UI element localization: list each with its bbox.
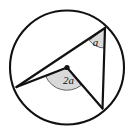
geometry-figure-container: a 2a: [0, 0, 136, 133]
central-angle-label: 2a: [63, 74, 75, 86]
inscribed-angle-label: a: [93, 36, 99, 48]
geometry-figure-svg: a 2a: [0, 0, 136, 133]
circle-center-dot: [64, 65, 69, 70]
